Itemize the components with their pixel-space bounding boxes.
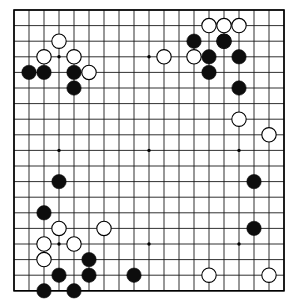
black-stone[interactable] [37, 65, 51, 79]
black-stone[interactable] [202, 65, 216, 79]
black-stone[interactable] [22, 65, 36, 79]
black-stone[interactable] [232, 81, 246, 95]
black-stone[interactable] [37, 284, 51, 298]
white-stone[interactable] [157, 50, 171, 64]
black-stone[interactable] [82, 252, 96, 266]
white-stone[interactable] [262, 128, 276, 142]
star-point [57, 55, 60, 58]
white-stone[interactable] [52, 34, 66, 48]
white-stone[interactable] [37, 252, 51, 266]
white-stone[interactable] [67, 50, 81, 64]
white-stone[interactable] [52, 221, 66, 235]
white-stone[interactable] [67, 237, 81, 251]
black-stone[interactable] [67, 284, 81, 298]
star-point [57, 242, 60, 245]
star-point [237, 149, 240, 152]
go-board[interactable] [0, 0, 297, 308]
star-point [147, 149, 150, 152]
black-stone[interactable] [217, 34, 231, 48]
black-stone[interactable] [202, 50, 216, 64]
white-stone[interactable] [37, 237, 51, 251]
black-stone[interactable] [247, 174, 261, 188]
star-point [237, 242, 240, 245]
black-stone[interactable] [187, 34, 201, 48]
white-stone[interactable] [262, 268, 276, 282]
star-point [57, 149, 60, 152]
black-stone[interactable] [247, 221, 261, 235]
white-stone[interactable] [232, 112, 246, 126]
go-board-container [0, 0, 297, 308]
black-stone[interactable] [52, 268, 66, 282]
white-stone[interactable] [202, 268, 216, 282]
white-stone[interactable] [97, 221, 111, 235]
white-stone[interactable] [82, 65, 96, 79]
black-stone[interactable] [37, 206, 51, 220]
black-stone[interactable] [127, 268, 141, 282]
white-stone[interactable] [37, 50, 51, 64]
black-stone[interactable] [232, 50, 246, 64]
black-stone[interactable] [67, 81, 81, 95]
white-stone[interactable] [187, 50, 201, 64]
white-stone[interactable] [202, 18, 216, 32]
white-stone[interactable] [232, 18, 246, 32]
white-stone[interactable] [217, 18, 231, 32]
black-stone[interactable] [82, 268, 96, 282]
star-point [147, 242, 150, 245]
black-stone[interactable] [52, 174, 66, 188]
black-stone[interactable] [67, 65, 81, 79]
star-point [147, 55, 150, 58]
